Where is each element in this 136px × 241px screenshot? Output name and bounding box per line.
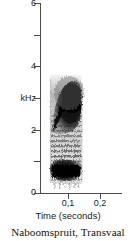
spectrogram-figure: 6 4 kHz 2 0 0,1 0,2: [0, 0, 136, 241]
spectrogram-graphic: [40, 3, 122, 193]
y-tick-label-4: 4: [31, 62, 36, 71]
upper-lobe-halo: [54, 76, 84, 110]
spectrogram-plot: [40, 3, 122, 193]
x-tick-label-0.1: 0,1: [62, 199, 75, 208]
x-axis-line: [40, 193, 122, 194]
y-tick-label-0: 0: [31, 188, 36, 197]
x-tick-label-0.2: 0,2: [94, 199, 107, 208]
figure-caption: Naboomspruit, Transvaal: [0, 226, 136, 238]
y-tick-label-2: 2: [31, 126, 36, 135]
y-axis-unit-label: kHz: [21, 94, 37, 103]
y-tick-label-6: 6: [31, 0, 36, 8]
x-axis-title: Time (seconds): [0, 210, 136, 221]
lower-band: [50, 159, 82, 181]
